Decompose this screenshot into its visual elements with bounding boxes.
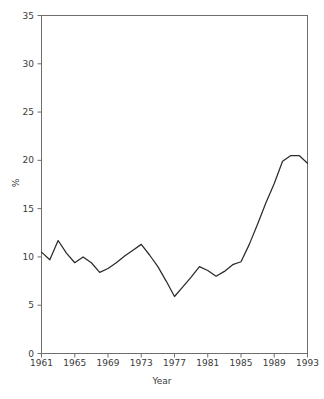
x-axis-title: Year xyxy=(0,376,324,386)
x-axis-tick-labels: 196119651969197319771981198519891993 xyxy=(0,0,324,399)
line-chart-figure: 05101520253035 1961196519691973197719811… xyxy=(0,0,324,399)
y-axis-title: % xyxy=(5,173,27,193)
x-tick-label: 1993 xyxy=(288,358,324,369)
